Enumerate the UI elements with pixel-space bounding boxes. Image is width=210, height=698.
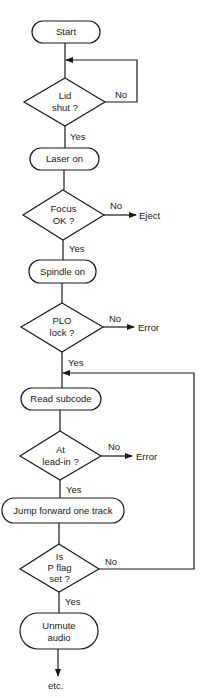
focus-no-label: No xyxy=(110,200,122,211)
lead-in-label-line1: At xyxy=(20,444,101,455)
read-subcode-label: Read subcode xyxy=(21,393,101,404)
plo-label-line1: PLO xyxy=(21,315,103,326)
focus-yes-label: Yes xyxy=(69,243,85,254)
lid-label-line2: shut ? xyxy=(25,102,105,113)
p-flag-label-line3: set ? xyxy=(20,573,99,584)
start-label: Start xyxy=(32,26,100,37)
lid-yes-label: Yes xyxy=(70,131,86,142)
eject-outcome: Eject xyxy=(139,210,160,221)
jump-forward-label: Jump forward one track xyxy=(2,505,124,516)
lid-no-label: No xyxy=(115,89,127,100)
etc-outcome: etc. xyxy=(48,680,63,691)
error-outcome-plo: Error xyxy=(138,322,159,333)
focus-label-line1: Focus xyxy=(23,203,104,214)
laser-on-label: Laser on xyxy=(30,153,99,164)
plo-label-line2: lock ? xyxy=(21,327,103,338)
plo-yes-label: Yes xyxy=(68,357,84,368)
lid-label-line1: Lid xyxy=(25,90,105,101)
unmute-label-line1: Unmute xyxy=(20,620,98,631)
focus-label-line2: OK ? xyxy=(23,215,104,226)
unmute-audio-box xyxy=(20,613,98,649)
plo-no-label: No xyxy=(109,313,121,324)
p-flag-no-label: No xyxy=(105,556,117,567)
error-outcome-lead-in: Error xyxy=(136,451,157,462)
p-flag-yes-label: Yes xyxy=(65,596,81,607)
unmute-label-line2: audio xyxy=(20,632,98,643)
p-flag-label-line1: Is xyxy=(20,551,99,562)
p-flag-label-line2: P flag xyxy=(20,562,99,573)
lead-in-no-label: No xyxy=(108,441,120,452)
lead-in-yes-label: Yes xyxy=(66,484,82,495)
lead-in-label-line2: lead-in ? xyxy=(20,456,101,467)
spindle-on-label: Spindle on xyxy=(29,266,96,277)
